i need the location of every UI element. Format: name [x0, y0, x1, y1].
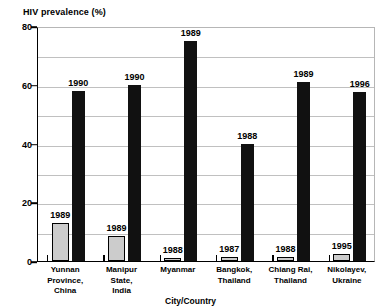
gridline-major	[38, 87, 374, 88]
bar-grey	[221, 257, 238, 261]
x-axis-category-label: Nikolayev,Ukraine	[327, 265, 366, 286]
bar-grey	[277, 257, 294, 261]
bar-grey	[52, 223, 69, 261]
bar-black	[184, 41, 197, 261]
x-axis-category-label: Myanmar	[160, 265, 195, 276]
bar-value-label-black: 1989	[293, 69, 313, 79]
x-axis-category-label: Bangkok,Thailand	[216, 265, 252, 286]
x-axis-category-label: YunnanProvince,China	[47, 265, 83, 297]
gridline-minor	[38, 234, 374, 235]
x-axis-tick-mark	[160, 255, 161, 262]
x-axis-category-label-line: Myanmar	[160, 265, 195, 276]
bar-value-label-black: 1990	[124, 72, 144, 82]
x-axis-category-label-line: Ukraine	[327, 276, 366, 287]
x-axis-category-label-line: State,	[106, 276, 137, 287]
gridline-major	[38, 204, 374, 205]
bar-black	[128, 85, 141, 261]
bar-grey	[164, 258, 181, 261]
gridline-major	[38, 146, 374, 147]
x-axis-tick-mark	[329, 255, 330, 262]
bar-black	[353, 92, 366, 261]
bar-value-label-grey: 1988	[275, 244, 295, 254]
bar-value-label-black: 1989	[181, 28, 201, 38]
x-axis-category-label-line: Chiang Rai,	[268, 265, 312, 276]
x-axis-category-label-line: India	[106, 286, 137, 297]
x-axis-category-label-line: Bangkok,	[216, 265, 252, 276]
x-axis-tick-mark	[47, 255, 48, 262]
bar-value-label-grey: 1989	[106, 223, 126, 233]
x-axis-category-label-line: Nikolayev,	[327, 265, 366, 276]
chart-title: HIV prevalence (%)	[23, 7, 106, 17]
gridline-minor	[38, 116, 374, 117]
bar-value-label-grey: 1989	[50, 210, 70, 220]
x-axis-category-label-line: Yunnan	[47, 265, 83, 276]
bar-value-label-black: 1988	[237, 131, 257, 141]
x-axis-category-label-line: Thailand	[268, 276, 312, 287]
x-axis-category-label-line: Manipur	[106, 265, 137, 276]
plot-area: 1989199019891990198819891987198819881989…	[37, 27, 375, 262]
bar-grey	[108, 236, 125, 261]
bar-black	[297, 82, 310, 261]
x-axis-title: City/Country	[0, 296, 381, 306]
bar-value-label-black: 1990	[68, 78, 88, 88]
x-axis-category-label: ManipurState,India	[106, 265, 137, 297]
bar-value-label-grey: 1988	[163, 245, 183, 255]
x-axis-tick-mark	[272, 255, 273, 262]
gridline-minor	[38, 175, 374, 176]
x-axis-category-label: Chiang Rai,Thailand	[268, 265, 312, 286]
gridline-minor	[38, 57, 374, 58]
x-axis-category-label-line: Thailand	[216, 276, 252, 287]
bar-black	[241, 144, 254, 262]
bar-grey	[333, 254, 350, 261]
y-axis-ticks	[0, 27, 40, 262]
bar-value-label-black: 1996	[350, 79, 370, 89]
bar-value-label-grey: 1987	[219, 244, 239, 254]
hiv-prevalence-bar-chart: HIV prevalence (%) 020406080 19891990198…	[0, 0, 381, 308]
x-axis-tick-mark	[216, 255, 217, 262]
x-axis-category-label-line: Province,	[47, 276, 83, 287]
bar-black	[72, 91, 85, 261]
x-axis-tick-mark	[103, 255, 104, 262]
bar-value-label-grey: 1995	[332, 241, 352, 251]
x-axis-category-label-line: China	[47, 286, 83, 297]
